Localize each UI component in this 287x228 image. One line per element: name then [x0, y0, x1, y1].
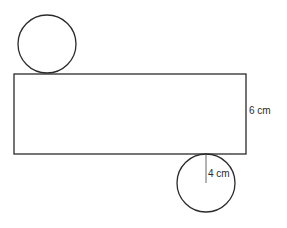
lateral-surface-rectangle	[14, 74, 246, 154]
radius-label: 4 cm	[208, 169, 230, 179]
height-label: 6 cm	[249, 106, 271, 116]
top-circle-base	[18, 15, 76, 73]
cylinder-net-diagram	[0, 0, 287, 228]
